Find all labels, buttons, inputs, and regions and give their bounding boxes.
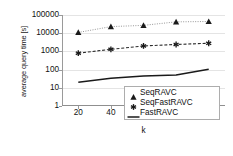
chart-legend: SeqRAVCSeqFastRAVCFastRAVC — [124, 86, 220, 120]
y-tick-label: 100000 — [12, 11, 59, 19]
y-tick-label: 10000 — [12, 29, 59, 37]
data-point-marker-triangle — [173, 19, 179, 25]
legend-item-fastravc[interactable]: FastRAVC — [127, 108, 217, 118]
series-fastravc — [78, 69, 208, 82]
series-seqfastravc — [76, 40, 211, 56]
y-tick-label: 100 — [12, 66, 59, 74]
x-axis-title: k — [62, 126, 225, 135]
y-axis-tick-labels: 100000100001000100101 — [12, 0, 59, 156]
y-tick-label: 1000 — [12, 47, 59, 55]
legend-label: SeqFastRAVC — [140, 98, 193, 108]
chart-container: average query time [s] 10000010000100010… — [0, 0, 233, 156]
data-point-marker-triangle — [108, 24, 114, 30]
legend-marker-asterisk-icon — [127, 98, 140, 108]
legend-item-seqfastravc[interactable]: SeqFastRAVC — [127, 98, 217, 108]
data-point-marker-triangle — [75, 29, 81, 35]
legend-item-seqravc[interactable]: SeqRAVC — [127, 88, 217, 98]
legend-label: SeqRAVC — [140, 88, 177, 98]
y-tick-mark — [59, 106, 62, 107]
series-line — [78, 69, 208, 82]
x-tick-label: 20 — [63, 108, 93, 117]
y-tick-label: 10 — [12, 84, 59, 92]
x-tick-label: 40 — [96, 108, 126, 117]
series-seqravc — [75, 18, 212, 35]
legend-label: FastRAVC — [140, 108, 178, 118]
data-point-marker-triangle — [206, 18, 212, 24]
legend-marker-triangle-icon — [127, 88, 140, 98]
y-tick-label: 1 — [12, 102, 59, 110]
data-point-marker-asterisk — [206, 40, 211, 46]
legend-marker-line-icon — [127, 108, 140, 118]
